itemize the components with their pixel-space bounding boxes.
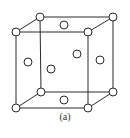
corner-atom-front-top-left <box>12 28 20 36</box>
corner-atom-front-top-right <box>84 28 92 36</box>
face-center-atom-left <box>24 58 32 66</box>
figure-caption: (a) <box>0 111 130 122</box>
corner-atom-back-top-left <box>36 13 44 21</box>
face-center-atom-bottom <box>60 96 68 104</box>
face-center-atom-front <box>47 65 55 73</box>
face-center-atom-right <box>96 56 104 64</box>
corner-atom-back-bottom-left <box>37 88 45 96</box>
face-center-atom-back <box>73 50 81 58</box>
corner-atom-back-bottom-right <box>109 88 117 96</box>
cube-edge-back-bottom-left-to-back-top-left <box>40 17 41 92</box>
corner-atom-back-top-right <box>109 13 117 21</box>
face-center-atom-top <box>60 21 68 29</box>
